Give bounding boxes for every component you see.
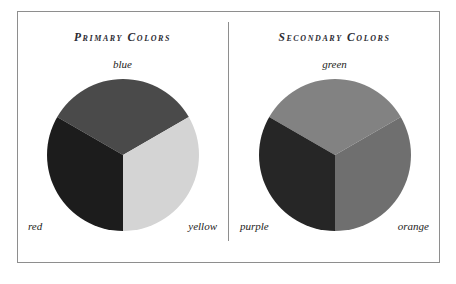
panel-title-secondary: Secondary Colors xyxy=(229,31,440,43)
color-wheel-secondary xyxy=(259,79,411,231)
wedge-label-orange: orange xyxy=(398,220,429,232)
wedge-label-green: green xyxy=(229,58,440,70)
primary-pie-svg xyxy=(47,79,199,231)
panel-secondary-colors: Secondary Colors green purple orange xyxy=(229,11,440,263)
color-wheels-figure: Primary Colors blue red yellow Secondary… xyxy=(0,0,456,284)
secondary-pie-svg xyxy=(259,79,411,231)
panel-title-primary: Primary Colors xyxy=(17,31,228,43)
color-wheel-primary xyxy=(47,79,199,231)
wedge-label-purple: purple xyxy=(240,220,269,232)
wedge-label-red: red xyxy=(28,220,42,232)
panel-primary-colors: Primary Colors blue red yellow xyxy=(17,11,228,263)
wedge-label-yellow: yellow xyxy=(188,220,217,232)
wedge-label-blue: blue xyxy=(17,58,228,70)
